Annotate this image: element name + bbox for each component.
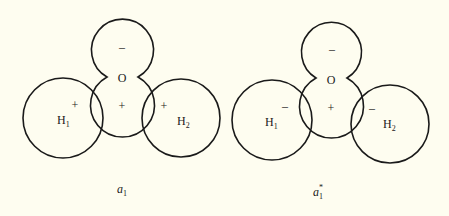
oxygen-top-sign: – [328, 42, 336, 56]
panel-a1: – O + + H1 + H2 a1 [23, 19, 220, 198]
caption-a1: a1 [117, 182, 127, 198]
oxygen-bottom-sign: + [328, 101, 335, 115]
caption-a1-star: a1* [313, 183, 323, 201]
orbital-diagram: – O + + H1 + H2 a1 – O + – H1 – H2 a1* [0, 0, 449, 216]
oxygen-label: O [327, 73, 336, 87]
h1-label: H1 [57, 113, 70, 129]
h1-label: H1 [265, 115, 278, 131]
h2-sign: + [161, 99, 168, 113]
h2-label: H2 [177, 114, 190, 130]
h2-label: H2 [383, 117, 396, 133]
h1-sign: + [72, 98, 79, 112]
oxygen-top-sign: – [118, 40, 126, 54]
panel-a1-star: – O + – H1 – H2 a1* [232, 22, 429, 201]
h1-sign: – [281, 99, 289, 113]
oxygen-bottom-sign: + [119, 99, 126, 113]
oxygen-label: O [118, 71, 127, 85]
h2-sign: – [368, 101, 376, 115]
